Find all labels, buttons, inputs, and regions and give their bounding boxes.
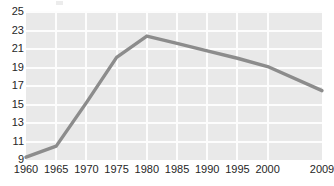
top-edge-artifact	[56, 1, 63, 5]
x-tick-label: 1990	[195, 163, 219, 175]
y-tick-label: 17	[0, 80, 24, 91]
y-tick-label: 25	[0, 6, 24, 17]
x-tick-label: 1985	[165, 163, 189, 175]
y-tick-label: 23	[0, 25, 24, 36]
y-tick-label: 15	[0, 99, 24, 110]
x-tick-label: 1980	[135, 163, 159, 175]
x-tick-label: 1970	[74, 163, 98, 175]
series-line	[26, 12, 322, 160]
x-axis-tick-labels: 1960196519701975198019851990199520002009	[0, 163, 330, 183]
plot-area	[26, 12, 322, 160]
y-axis-tick-labels: 25232119171513119	[0, 0, 24, 186]
x-tick-label: 1960	[14, 163, 38, 175]
x-tick-label: 1965	[44, 163, 68, 175]
y-tick-label: 21	[0, 43, 24, 54]
x-tick-label: 2009	[310, 163, 334, 175]
y-tick-label: 13	[0, 117, 24, 128]
x-tick-label: 1975	[104, 163, 128, 175]
y-tick-label: 11	[0, 136, 24, 147]
y-tick-label: 19	[0, 62, 24, 73]
x-tick-label: 1995	[225, 163, 249, 175]
x-tick-label: 2000	[255, 163, 279, 175]
